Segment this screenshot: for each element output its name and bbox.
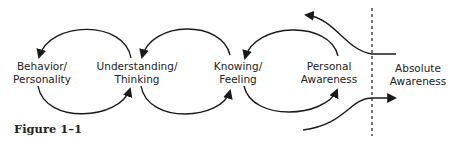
arrow-knowing-to-understanding [142,29,230,57]
node-label-line: Personal [301,60,357,73]
node-label-line: Understanding/ [97,60,178,73]
node-label-line: Behavior/ [13,60,71,73]
arrow-inward-to-absolute [303,98,395,130]
node-knowing-feeling: Knowing/ Feeling [214,60,262,85]
node-personal-awareness: Personal Awareness [301,60,357,85]
arrow-understanding-to-behavior [39,29,131,58]
node-label-line: Thinking [97,73,178,86]
node-absolute-awareness: Absolute Awareness [390,62,446,87]
node-label-line: Awareness [390,75,446,88]
figure-diagram: Behavior/ Personality Understanding/ Thi… [0,0,458,141]
node-behavior-personality: Behavior/ Personality [13,60,71,85]
node-label-line: Personality [13,73,71,86]
node-label-line: Knowing/ [214,60,262,73]
node-label-line: Absolute [390,62,446,75]
arrow-behavior-to-understanding [38,86,130,114]
arrow-personal-to-knowing [245,30,338,58]
arrow-knowing-to-personal [244,86,337,112]
node-label-line: Feeling [214,73,262,86]
node-understanding-thinking: Understanding/ Thinking [97,60,178,85]
node-label-line: Awareness [301,73,357,86]
figure-caption: Figure 1–1 [14,122,82,136]
arrow-understanding-to-knowing [141,86,230,114]
